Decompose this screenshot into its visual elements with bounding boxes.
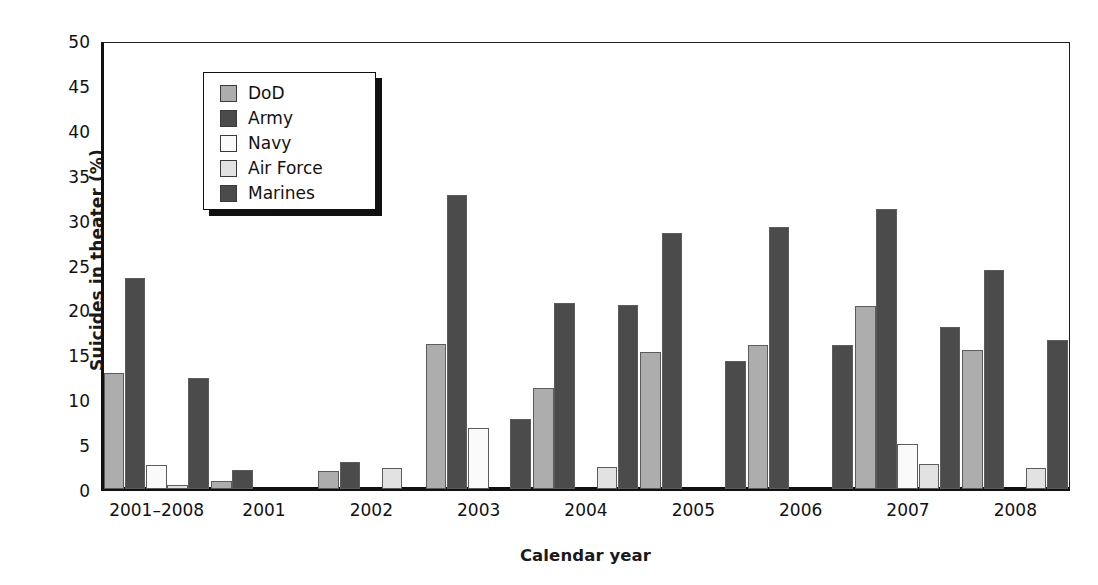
bar-army-2008 — [984, 270, 1005, 489]
legend-item-dod: DoD — [220, 81, 375, 105]
legend-swatch-navy — [220, 135, 237, 152]
bar-army-2001 — [232, 470, 253, 489]
bar-army-2007 — [876, 209, 897, 489]
x-tick-label-2006: 2006 — [747, 500, 854, 520]
bar-dod-2007 — [855, 306, 876, 489]
bar-dod-2001 — [211, 481, 232, 489]
x-tick-label-2002: 2002 — [318, 500, 425, 520]
bar-marines-2005 — [725, 361, 746, 489]
legend: DoDArmyNavyAir ForceMarines — [203, 72, 376, 210]
legend-item-army: Army — [220, 106, 375, 130]
bar-army-2002 — [340, 462, 361, 489]
y-tick-label: 20 — [46, 301, 90, 321]
y-tick-label: 50 — [46, 32, 90, 52]
legend-swatch-air-force — [220, 160, 237, 177]
bar-marines-2001-2008 — [188, 378, 209, 490]
bar-army-2005 — [662, 233, 683, 489]
bar-air-force-2002 — [382, 468, 403, 489]
legend-label: Air Force — [248, 160, 323, 177]
x-axis-title: Calendar year — [101, 546, 1070, 565]
bar-dod-2004 — [533, 388, 554, 489]
bar-dod-2005 — [640, 352, 661, 489]
x-tick-label-2004: 2004 — [532, 500, 639, 520]
bar-navy-2001-2008 — [146, 465, 167, 489]
bar-air-force-2007 — [919, 464, 940, 489]
x-tick-label-2007: 2007 — [854, 500, 961, 520]
y-tick-label: 30 — [46, 212, 90, 232]
bar-marines-2004 — [618, 305, 639, 489]
x-tick-label-2001-2008: 2001–2008 — [103, 500, 210, 520]
y-tick-label: 35 — [46, 167, 90, 187]
legend-swatch-dod — [220, 85, 237, 102]
legend-label: DoD — [248, 85, 285, 102]
legend-item-navy: Navy — [220, 131, 375, 155]
legend-swatch-marines — [220, 185, 237, 202]
x-tick-label-2001: 2001 — [210, 500, 317, 520]
bar-marines-2008 — [1047, 340, 1068, 489]
bar-marines-2006 — [832, 345, 853, 489]
y-tick-label: 25 — [46, 257, 90, 277]
bar-navy-2003 — [468, 428, 489, 489]
legend-item-marines: Marines — [220, 181, 375, 205]
x-tick-label-2003: 2003 — [425, 500, 532, 520]
bar-dod-2003 — [426, 344, 447, 489]
x-tick-label-2005: 2005 — [640, 500, 747, 520]
legend-label: Army — [248, 110, 293, 127]
bar-army-2004 — [554, 303, 575, 489]
bar-air-force-2008 — [1026, 468, 1047, 489]
y-tick-label: 5 — [46, 436, 90, 456]
legend-label: Navy — [248, 135, 291, 152]
bar-dod-2002 — [318, 471, 339, 489]
bar-marines-2003 — [510, 419, 531, 489]
legend-label: Marines — [248, 185, 315, 202]
bar-army-2006 — [769, 227, 790, 489]
bar-dod-2006 — [748, 345, 769, 489]
bar-marines-2007 — [940, 327, 961, 489]
y-tick-label: 0 — [46, 481, 90, 501]
bar-chart-figure: Suicides in theater (%) 0510152025303540… — [0, 0, 1098, 585]
bar-army-2001-2008 — [125, 278, 146, 489]
y-tick-label: 10 — [46, 391, 90, 411]
bar-dod-2008 — [962, 350, 983, 489]
legend-item-air-force: Air Force — [220, 156, 375, 180]
bar-navy-2007 — [897, 444, 918, 489]
y-tick-label: 15 — [46, 346, 90, 366]
bar-dod-2001-2008 — [104, 373, 125, 489]
bar-air-force-2004 — [597, 467, 618, 489]
bar-army-2003 — [447, 195, 468, 489]
legend-swatch-army — [220, 110, 237, 127]
y-tick-label: 40 — [46, 122, 90, 142]
x-tick-label-2008: 2008 — [962, 500, 1069, 520]
y-tick-label: 45 — [46, 77, 90, 97]
bar-air-force-2001-2008 — [167, 485, 188, 489]
